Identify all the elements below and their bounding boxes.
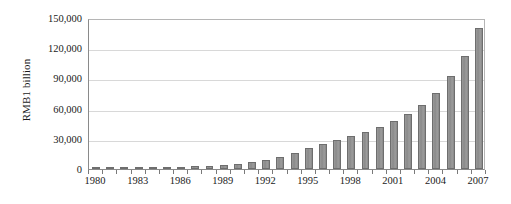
x-axis-tick <box>315 170 316 174</box>
x-axis-tick-label: 2007 <box>467 176 488 187</box>
bar <box>291 153 299 169</box>
bar <box>333 140 341 169</box>
x-axis-tick-label: 1983 <box>127 176 148 187</box>
y-axis-tick-label: 90,000 <box>53 74 82 85</box>
x-axis-tick <box>372 170 373 174</box>
x-axis-tick <box>145 170 146 174</box>
bar <box>447 76 455 169</box>
bar <box>163 167 171 169</box>
x-axis-tick-label: 2001 <box>382 176 403 187</box>
x-axis-tick <box>329 170 330 174</box>
y-axis-tick-labels: 150,000120,00090,00060,00030,0000 <box>38 0 86 204</box>
bar <box>262 160 270 169</box>
x-axis-tick <box>187 170 188 174</box>
bar <box>234 164 242 169</box>
x-axis-tick-label: 1998 <box>340 176 361 187</box>
x-axis-tick <box>216 170 217 174</box>
x-axis-tick <box>386 170 387 174</box>
bar <box>362 132 370 169</box>
bar <box>206 166 214 169</box>
plot-area <box>88 19 485 170</box>
y-axis-tick-label: 0 <box>77 165 82 176</box>
x-axis-tick-label: 2004 <box>425 176 446 187</box>
x-axis-tick <box>428 170 429 174</box>
x-axis-tick <box>116 170 117 174</box>
bar <box>135 167 143 169</box>
bar <box>106 167 114 169</box>
x-axis-tick-labels: 1980198319861989199219951998200120042007 <box>88 176 485 196</box>
x-axis-tick <box>400 170 401 174</box>
y-axis-title-label: RMB1 billion <box>20 59 32 122</box>
y-axis-tick-label: 60,000 <box>53 104 82 115</box>
bar <box>120 167 128 169</box>
bar <box>475 28 483 169</box>
x-axis-tick <box>244 170 245 174</box>
x-axis-tick-label: 1980 <box>85 176 106 187</box>
x-axis-tick <box>131 170 132 174</box>
bar <box>248 162 256 169</box>
x-axis-tick <box>159 170 160 174</box>
x-axis-tick <box>287 170 288 174</box>
x-axis-tick <box>343 170 344 174</box>
bar <box>191 166 199 169</box>
x-axis-tick <box>201 170 202 174</box>
x-axis-tick <box>471 170 472 174</box>
bar <box>461 56 469 169</box>
bar <box>220 165 228 169</box>
x-axis-tick-label: 1989 <box>212 176 233 187</box>
bars-series <box>89 20 484 169</box>
bar <box>432 93 440 170</box>
bar <box>418 105 426 169</box>
bar <box>149 167 157 169</box>
y-axis-title: RMB1 billion <box>14 0 38 180</box>
x-axis-tick <box>258 170 259 174</box>
x-axis-tick <box>230 170 231 174</box>
bar <box>376 127 384 169</box>
bar-chart-figure: RMB1 billion 150,000120,00090,00060,0003… <box>0 0 511 204</box>
bar <box>276 157 284 169</box>
x-axis-tick <box>301 170 302 174</box>
x-axis-tick <box>88 170 89 174</box>
x-axis-tick-label: 1995 <box>297 176 318 187</box>
x-axis-tick <box>173 170 174 174</box>
bar <box>305 148 313 169</box>
x-axis-tick <box>485 170 486 174</box>
x-axis-tick <box>414 170 415 174</box>
bar <box>347 136 355 169</box>
x-axis-tick-label: 1992 <box>255 176 276 187</box>
y-axis-tick-label: 30,000 <box>53 135 82 146</box>
x-axis-tick <box>442 170 443 174</box>
bar <box>177 167 185 169</box>
y-axis-tick-label: 120,000 <box>48 44 82 55</box>
bar <box>390 121 398 169</box>
x-axis-tick <box>357 170 358 174</box>
x-axis-tick <box>102 170 103 174</box>
bar <box>404 114 412 169</box>
bar <box>92 167 100 169</box>
x-axis-tick-label: 1986 <box>170 176 191 187</box>
x-axis-tick <box>457 170 458 174</box>
x-axis-tick <box>272 170 273 174</box>
y-axis-tick-label: 150,000 <box>48 14 82 25</box>
bar <box>319 144 327 169</box>
